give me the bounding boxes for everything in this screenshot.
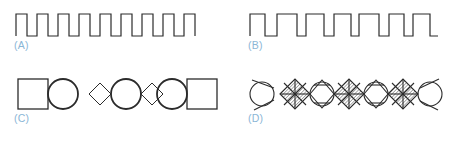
shape-square-2 [187,79,217,109]
panel-label-a: (A) [14,39,29,51]
square-wave-path-a [16,14,195,36]
shape-circle-2 [111,79,141,109]
shape-circle-3 [157,79,187,109]
panel-a: (A) [0,0,234,72]
panel-label-b: (B) [248,39,263,51]
panel-b-artwork [234,0,467,44]
panel-c-artwork [0,68,234,120]
shape-circle-2 [310,82,334,106]
spike-4b [420,101,438,110]
panel-label-c: (C) [14,112,29,124]
figure-root: (A) (B) [0,0,467,144]
shape-diamond-1 [89,83,111,105]
panel-d-artwork [234,68,467,120]
panel-c: (C) [0,68,234,144]
shape-square-1 [18,79,48,109]
square-wave-path-b [250,14,438,36]
panel-b: (B) [234,0,467,72]
panel-d: (D) [234,68,467,144]
shape-circle-1 [48,79,78,109]
panel-label-d: (D) [248,112,263,124]
circle-2-diamond-hint [310,80,334,108]
shape-circle-3 [364,82,388,106]
circle-3-diamond-hint [364,80,388,108]
panel-a-artwork [0,0,234,44]
